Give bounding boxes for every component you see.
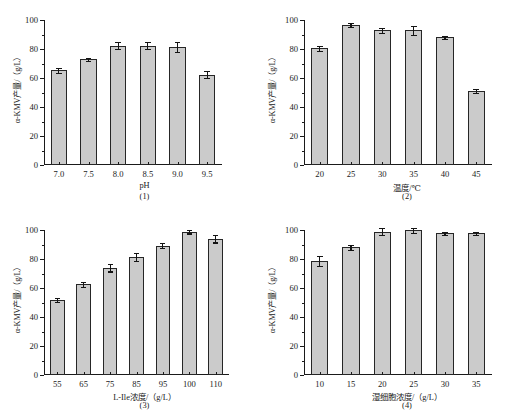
x-tick-label-75: 75 xyxy=(106,379,115,389)
x-axis-label-1: pH xyxy=(0,181,255,190)
y-tick-0 xyxy=(300,165,304,166)
chart-panel-2: α-KMV产量/（g/L） 020406080100202530354045 温… xyxy=(255,0,515,210)
error-cap-lower xyxy=(442,235,448,236)
error-cap-upper xyxy=(134,253,139,254)
x-tick-45 xyxy=(476,162,477,166)
y-tick-label-100: 100 xyxy=(285,15,298,25)
bar-65 xyxy=(76,284,91,375)
x-tick-label-25: 25 xyxy=(347,169,356,179)
y-tick-label-80: 80 xyxy=(289,44,298,54)
error-cap-upper xyxy=(213,235,218,236)
x-tick-25 xyxy=(351,162,352,166)
y-tick-label-60: 60 xyxy=(29,73,38,83)
bar-7.5 xyxy=(80,59,97,165)
y-tick-100 xyxy=(300,230,304,231)
error-cap-upper xyxy=(473,89,479,90)
x-tick-label-65: 65 xyxy=(79,379,88,389)
y-tick-label-20: 20 xyxy=(29,341,38,351)
y-tick-60 xyxy=(300,288,304,289)
y-tick-label-40: 40 xyxy=(289,102,298,112)
error-cap-lower xyxy=(317,266,323,267)
x-tick-10 xyxy=(320,372,321,376)
error-cap-lower xyxy=(473,93,479,94)
error-cap-lower xyxy=(55,302,60,303)
y-tick-60 xyxy=(40,288,44,289)
bar-35 xyxy=(405,30,423,165)
x-tick-label-7.5: 7.5 xyxy=(83,169,94,179)
chart-panel-4: α-KMV产量/（g/L） 020406080100101520253035 湿… xyxy=(255,210,515,419)
y-tick-label-20: 20 xyxy=(289,341,298,351)
y-tick-20 xyxy=(40,136,44,137)
error-cap-lower xyxy=(348,250,354,251)
x-tick-label-30: 30 xyxy=(378,169,387,179)
y-tick-40 xyxy=(40,317,44,318)
y-axis-label-3: α-KMV产量/（g/L） xyxy=(11,228,25,368)
bar-9.5 xyxy=(199,75,216,165)
error-cap-upper xyxy=(442,232,448,233)
error-cap-lower xyxy=(175,52,181,53)
y-minor-tick xyxy=(302,274,305,275)
y-tick-label-80: 80 xyxy=(29,44,38,54)
x-tick-label-45: 45 xyxy=(472,169,481,179)
x-tick-label-7.0: 7.0 xyxy=(53,169,64,179)
x-tick-100 xyxy=(189,372,190,376)
bar-7.0 xyxy=(51,70,68,165)
error-cap-upper xyxy=(86,58,92,59)
error-cap-upper xyxy=(160,243,165,244)
x-tick-9.5 xyxy=(207,162,208,166)
bar-25 xyxy=(342,25,360,165)
bar-20 xyxy=(311,48,329,165)
bar-40 xyxy=(436,37,454,165)
y-tick-label-20: 20 xyxy=(29,131,38,141)
x-tick-label-35: 35 xyxy=(409,169,418,179)
x-tick-label-95: 95 xyxy=(159,379,168,389)
x-tick-15 xyxy=(351,372,352,376)
panel-caption-3: (3) xyxy=(0,401,255,410)
error-cap-upper xyxy=(204,71,210,72)
x-tick-25 xyxy=(414,372,415,376)
bar-10 xyxy=(311,261,329,375)
y-minor-tick xyxy=(42,274,45,275)
bar-100 xyxy=(182,232,197,375)
y-minor-tick xyxy=(302,303,305,304)
y-minor-tick xyxy=(302,122,305,123)
error-cap-upper xyxy=(411,228,417,229)
x-tick-85 xyxy=(137,372,138,376)
x-axis-line-2 xyxy=(304,164,492,165)
x-tick-7.5 xyxy=(89,162,90,166)
y-tick-label-60: 60 xyxy=(289,73,298,83)
error-bar-75 xyxy=(110,264,111,272)
y-tick-60 xyxy=(300,78,304,79)
y-tick-0 xyxy=(40,165,44,166)
x-tick-label-35: 35 xyxy=(472,379,481,389)
x-tick-35 xyxy=(476,372,477,376)
bar-30 xyxy=(436,233,454,375)
y-tick-80 xyxy=(300,49,304,50)
y-minor-tick xyxy=(302,64,305,65)
y-tick-label-0: 0 xyxy=(34,160,38,170)
bar-8.0 xyxy=(110,46,127,165)
bar-35 xyxy=(468,233,486,375)
error-cap-lower xyxy=(317,51,323,52)
error-cap-upper xyxy=(317,46,323,47)
y-tick-label-100: 100 xyxy=(25,225,38,235)
x-tick-9.0 xyxy=(178,162,179,166)
error-cap-upper xyxy=(348,23,354,24)
y-minor-tick xyxy=(302,361,305,362)
chart-panel-3: α-KMV产量/（g/L） 02040608010055657585951001… xyxy=(0,210,255,419)
bar-110 xyxy=(208,239,223,375)
x-tick-label-9.0: 9.0 xyxy=(172,169,183,179)
x-tick-label-85: 85 xyxy=(132,379,141,389)
y-minor-tick xyxy=(42,122,45,123)
error-cap-upper xyxy=(379,28,385,29)
error-cap-lower xyxy=(411,35,417,36)
y-minor-tick xyxy=(42,245,45,246)
x-tick-110 xyxy=(216,372,217,376)
y-axis-label-4: α-KMV产量/（g/L） xyxy=(266,228,280,368)
y-tick-label-0: 0 xyxy=(294,160,298,170)
chart-panel-1: α-KMV产量/（g/L） 0204060801007.07.58.08.59.… xyxy=(0,0,255,210)
y-tick-20 xyxy=(300,346,304,347)
y-tick-100 xyxy=(40,20,44,21)
x-tick-65 xyxy=(84,372,85,376)
y-tick-label-60: 60 xyxy=(29,283,38,293)
